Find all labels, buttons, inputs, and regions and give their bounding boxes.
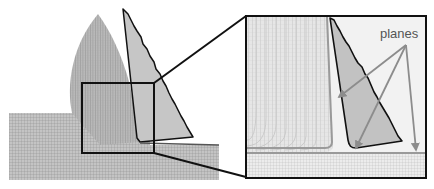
tool-flank-line: [140, 143, 219, 145]
planes-label: planes: [380, 26, 419, 41]
inset-chip-mesh: [247, 17, 333, 152]
inset-workpiece-mesh: [247, 152, 425, 177]
workpiece-mesh: [9, 14, 219, 180]
zoom-connector-top: [154, 16, 246, 83]
figure-canvas: planes: [0, 0, 434, 189]
